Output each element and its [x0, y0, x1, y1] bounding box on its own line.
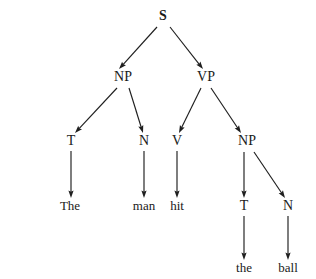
tree-edge-np1-to-t1	[75, 88, 117, 133]
leaf-word-ball: ball	[278, 260, 298, 275]
tree-node-np2: NP	[238, 133, 256, 148]
tree-edge-np2-to-n2	[254, 152, 285, 198]
tree-edge-np1-to-n1	[129, 88, 143, 133]
leaf-word-hit: hit	[170, 198, 184, 213]
tree-node-np1: NP	[114, 69, 132, 84]
leaf-word-the: the	[236, 260, 252, 275]
tree-node-n2: N	[283, 198, 293, 213]
tree-edge-t2-to-the	[241, 216, 246, 260]
tree-node-t2: T	[240, 198, 249, 213]
tree-edge-vp-to-np2	[211, 88, 241, 133]
tree-edge-v-to-hit	[174, 151, 179, 198]
tree-node-t1: T	[67, 133, 76, 148]
tree-edge-s-to-np1	[119, 27, 157, 69]
tree-edge-n2-to-ball	[285, 216, 290, 260]
tree-node-s: S	[159, 8, 167, 23]
tree-edge-t1-to-the	[68, 151, 73, 198]
tree-nodes-group: SNPVPTNVNPThemanhitTNtheball	[60, 8, 298, 275]
tree-node-v: V	[172, 133, 182, 148]
tree-edge-vp-to-v	[179, 88, 201, 133]
syntax-tree-canvas: SNPVPTNVNPThemanhitTNtheball	[0, 0, 316, 279]
tree-node-n1: N	[139, 133, 149, 148]
tree-edge-n1-to-man	[141, 151, 146, 198]
leaf-word-the: The	[60, 198, 80, 213]
tree-edge-s-to-vp	[170, 27, 203, 69]
syntax-tree-figure: SNPVPTNVNPThemanhitTNtheball	[0, 0, 316, 279]
tree-edge-np2-to-t2	[241, 152, 246, 198]
leaf-word-man: man	[133, 198, 156, 213]
tree-node-vp: VP	[197, 69, 215, 84]
